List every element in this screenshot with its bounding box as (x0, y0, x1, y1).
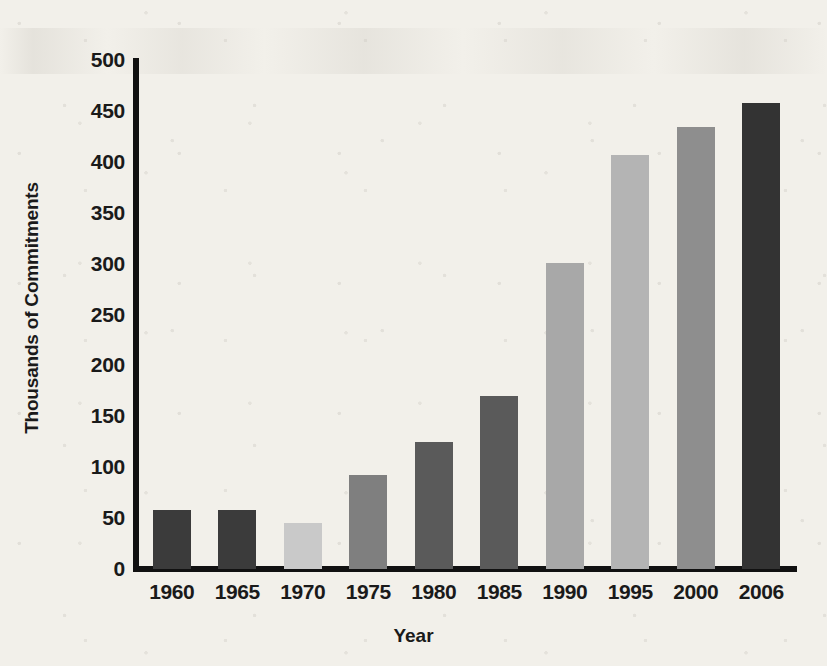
y-axis-tick-labels: 050100150200250300350400450500 (40, 0, 125, 666)
x-axis-tick-label: 1965 (205, 580, 271, 604)
y-axis-tick-label: 100 (91, 455, 125, 479)
y-axis-tick-label: 400 (91, 150, 125, 174)
y-axis-tick-label: 150 (91, 404, 125, 428)
bar (677, 127, 715, 569)
x-axis-tick-label: 1975 (336, 580, 402, 604)
x-axis-tick-label: 1980 (401, 580, 467, 604)
bar (218, 510, 256, 569)
y-axis-tick-label: 250 (91, 303, 125, 327)
bar (611, 155, 649, 569)
bar-chart-figure: 050100150200250300350400450500 Thousands… (0, 0, 827, 666)
x-axis-tick-label: 1990 (532, 580, 598, 604)
x-axis-tick-label: 2000 (663, 580, 729, 604)
x-axis-title: Year (0, 625, 827, 647)
y-axis-tick-label: 350 (91, 201, 125, 225)
bar (415, 442, 453, 569)
y-axis-tick-label: 500 (91, 48, 125, 72)
bar-series (139, 60, 794, 569)
y-axis-tick-label: 0 (114, 557, 125, 581)
x-axis-tick-label: 2006 (729, 580, 795, 604)
bar (284, 523, 322, 569)
y-axis-tick-label: 450 (91, 99, 125, 123)
x-axis-tick-label: 1985 (467, 580, 533, 604)
bar (742, 103, 780, 569)
y-axis-tick-label: 300 (91, 252, 125, 276)
y-axis-tick-label: 200 (91, 353, 125, 377)
x-axis-tick-label: 1970 (270, 580, 336, 604)
x-axis-tick-label: 1960 (139, 580, 205, 604)
x-axis-tick-label: 1995 (598, 580, 664, 604)
x-axis-tick-labels: 1960196519701975198019851990199520002006 (139, 580, 794, 610)
y-axis-tick-label: 50 (102, 506, 125, 530)
bar (480, 396, 518, 569)
bar (349, 475, 387, 569)
bar (153, 510, 191, 569)
bar (546, 263, 584, 569)
y-axis-title: Thousands of Commitments (21, 128, 43, 488)
